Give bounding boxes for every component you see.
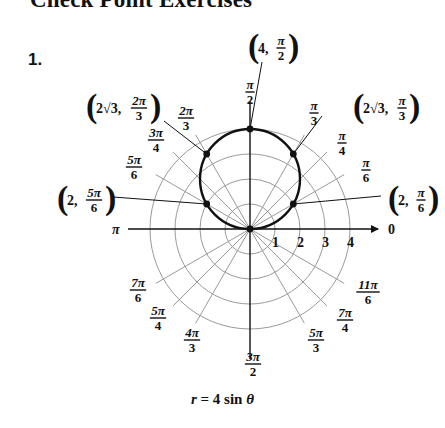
grid-ray [196, 229, 250, 323]
plotted-point [203, 201, 210, 208]
svg-text:6: 6 [91, 200, 98, 215]
svg-text:): ) [105, 179, 116, 217]
plotted-point [203, 151, 210, 158]
svg-text:π: π [417, 185, 425, 200]
svg-text:3: 3 [183, 118, 190, 133]
svg-text:3: 3 [313, 340, 320, 355]
svg-text:4: 4 [342, 320, 349, 335]
grid-ray [156, 229, 250, 283]
svg-text:): ) [409, 87, 420, 125]
point-label-fraction: 5π6 [86, 185, 102, 215]
svg-text:5π: 5π [151, 303, 166, 318]
angle-label: π2 [245, 77, 254, 107]
svg-text:2π: 2π [131, 93, 147, 108]
svg-text:4,: 4, [258, 41, 269, 56]
svg-text:4: 4 [155, 318, 162, 333]
plotted-point [247, 126, 254, 133]
ring-labels: 1234 [272, 235, 354, 250]
svg-text:7π: 7π [131, 275, 146, 290]
svg-text:3: 3 [399, 108, 406, 123]
svg-text:2√3,: 2√3, [96, 101, 121, 116]
svg-text:3: 3 [311, 113, 318, 128]
svg-text:π: π [362, 155, 370, 170]
angle-label: 7π6 [130, 275, 146, 305]
ring-label: 4 [347, 235, 354, 250]
angle-label: 5π3 [308, 325, 324, 355]
svg-text:4: 4 [339, 143, 346, 158]
svg-text:π: π [246, 77, 254, 92]
polar-graph: 0π 1234 π2π3π4π62π33π45π67π65π44π33π25π3… [0, 0, 445, 428]
plotted-point [247, 226, 254, 233]
axis-label-pi: π [112, 222, 120, 237]
leader-line [293, 196, 381, 204]
svg-text:2√3,: 2√3, [363, 101, 388, 116]
point-label: (2,5π6) [57, 179, 116, 217]
svg-text:): ) [150, 87, 161, 125]
grid-ray [250, 152, 327, 229]
angle-label: 5π4 [150, 303, 166, 333]
svg-text:5π: 5π [309, 325, 324, 340]
svg-text:4: 4 [153, 140, 160, 155]
svg-text:3π: 3π [148, 125, 164, 140]
point-label: (2√3,π3) [353, 87, 420, 125]
angle-label: 5π6 [126, 152, 142, 182]
point-label: (2√3,2π3) [86, 87, 161, 125]
grid-ray [156, 175, 250, 229]
svg-text:2,: 2, [398, 193, 409, 208]
equation-theta: θ [246, 391, 254, 407]
svg-text:4π: 4π [184, 325, 200, 340]
grid-ray [250, 135, 304, 229]
grid-ray [173, 152, 250, 229]
svg-text:6: 6 [365, 292, 372, 307]
svg-text:2: 2 [278, 48, 285, 63]
svg-text:π: π [277, 33, 285, 48]
grid-ray [173, 229, 250, 306]
svg-text:2π: 2π [178, 103, 194, 118]
svg-text:3: 3 [189, 340, 196, 355]
svg-text:π: π [310, 98, 318, 113]
grid-ray [250, 229, 327, 306]
angle-label: π6 [361, 155, 370, 185]
svg-text:3π: 3π [245, 349, 261, 364]
ring-label: 2 [297, 235, 304, 250]
svg-text:2: 2 [247, 92, 254, 107]
leader-line [113, 197, 207, 204]
svg-text:π: π [338, 128, 346, 143]
grid-ray [250, 175, 344, 229]
plotted-point [290, 151, 297, 158]
point-labels: (4,π2)(2√3,2π3)(2√3,π3)(2,5π6)(2,π6) [57, 27, 439, 217]
svg-text:): ) [288, 27, 299, 65]
angle-label: 11π6 [356, 277, 379, 307]
svg-text:6: 6 [363, 170, 370, 185]
ring-label: 1 [272, 235, 279, 250]
svg-text:11π: 11π [358, 277, 378, 292]
grid-ray [196, 135, 250, 229]
svg-text:3: 3 [136, 108, 143, 123]
svg-text:): ) [428, 179, 439, 217]
point-label-fraction: π2 [276, 33, 285, 63]
svg-text:5π: 5π [127, 152, 142, 167]
angle-label: π3 [309, 98, 318, 128]
equation-middle: = 4 sin [197, 391, 246, 407]
point-label-fraction: π3 [397, 93, 406, 123]
svg-text:5π: 5π [87, 185, 102, 200]
angle-label: 4π3 [184, 325, 200, 355]
point-label: (2,π6) [388, 179, 439, 217]
svg-text:2: 2 [250, 364, 257, 379]
ring-label: 3 [322, 235, 329, 250]
angle-label: 3π4 [148, 125, 164, 155]
angle-label: 3π2 [245, 349, 261, 379]
svg-text:π: π [398, 93, 406, 108]
point-label-fraction: 2π3 [131, 93, 147, 123]
plotted-point [290, 201, 297, 208]
angle-label: 7π4 [337, 305, 353, 335]
leader-line [293, 116, 322, 154]
exercise-page: Check Point Exercises 1. 0π 1234 π2π3π4π… [0, 0, 445, 428]
svg-text:2,: 2, [67, 193, 78, 208]
angle-label: 2π3 [178, 103, 194, 133]
svg-text:6: 6 [131, 167, 138, 182]
equation-caption: r = 4 sin θ [0, 391, 445, 408]
point-label: (4,π2) [248, 27, 299, 65]
svg-text:6: 6 [418, 200, 425, 215]
point-label-fraction: π6 [416, 185, 425, 215]
